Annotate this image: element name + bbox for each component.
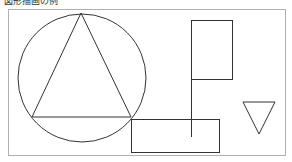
drawing-canvas <box>0 0 292 162</box>
inverted-triangle-shape <box>243 102 275 134</box>
tall-rectangle-shape <box>192 21 233 80</box>
wide-rectangle-shape <box>132 120 220 153</box>
circle-shape <box>18 14 146 142</box>
inscribed-triangle-shape <box>32 13 131 117</box>
